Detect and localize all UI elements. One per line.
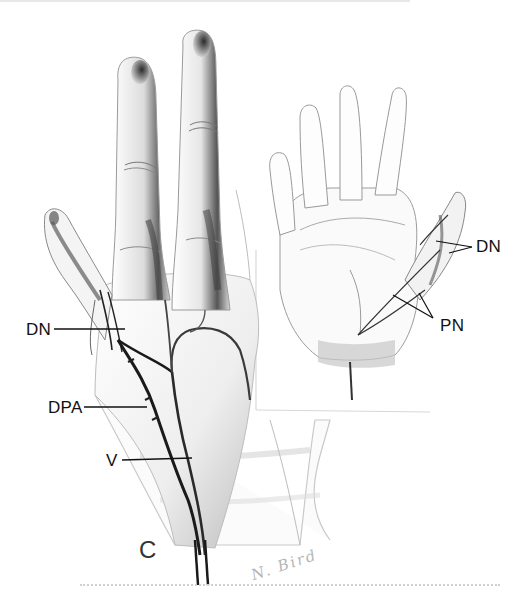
- label-pn: PN: [440, 317, 464, 334]
- palmar-hand: [270, 86, 472, 400]
- panel-letter: C: [139, 538, 156, 562]
- label-dn-main: DN: [26, 321, 51, 338]
- faded-caption-line: [80, 584, 500, 590]
- middle-fingernail: [193, 31, 211, 57]
- label-dn-inset: DN: [476, 238, 501, 255]
- hand-illustration: [0, 0, 526, 596]
- thumb-nail: [49, 211, 59, 225]
- label-v: V: [106, 452, 118, 469]
- index-fingernail: [131, 60, 149, 84]
- label-dpa: DPA: [48, 399, 83, 416]
